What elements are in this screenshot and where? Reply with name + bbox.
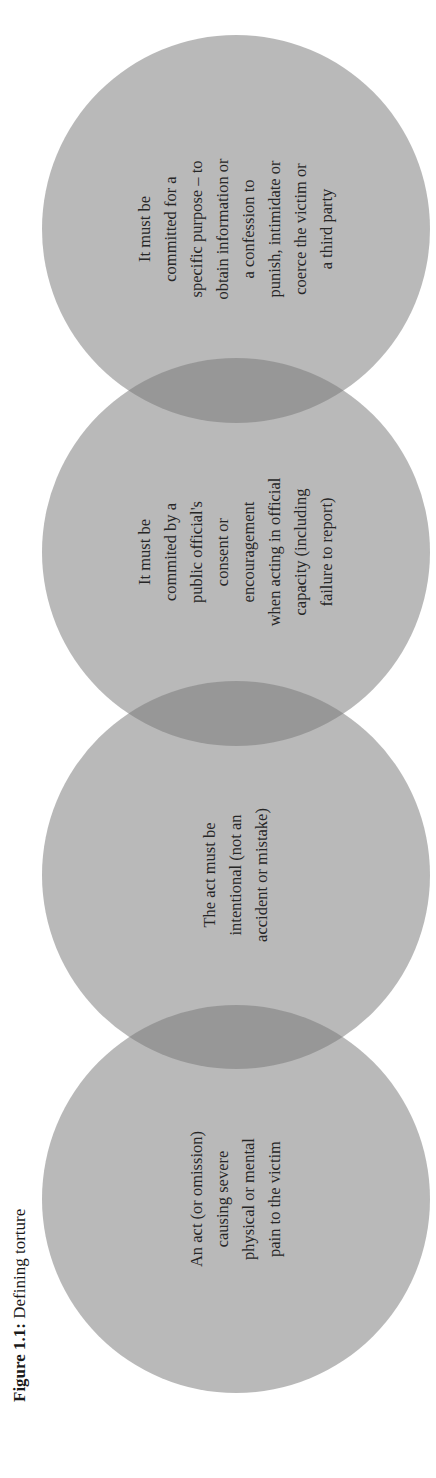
text-line: public official's [184,478,210,627]
text-line: commited by a [158,478,184,627]
text-line: coerce the victim or [288,158,314,299]
text-line: It must be [132,158,158,299]
overlapping-circles-diagram: An act (or omission) causing severe phys… [0,0,436,1478]
text-line: a third party [314,158,340,299]
text-line: obtain information or [210,158,236,299]
text-line: The act must be [197,808,223,942]
text-line: An act (or omission) [184,1131,210,1267]
circle-1-text: An act (or omission) causing severe phys… [136,1079,336,1319]
text-line: physical or mental [236,1131,262,1267]
text-line: pain to the victim [262,1131,288,1267]
text-line: causing severe [210,1131,236,1267]
text-line: encouragement [236,478,262,627]
text-line: failure to report) [314,478,340,627]
text-line: intentional (not an [223,808,249,942]
circle-3-text: It must be commited by a public official… [136,427,336,677]
text-line: committed for a [158,158,184,299]
circle-2-text: The act must be intentional (not an acci… [136,755,336,995]
text-line: punish, intimidate or [262,158,288,299]
text-line: It must be [132,478,158,627]
text-line: consent or [210,478,236,627]
text-line: specific purpose – to [184,158,210,299]
text-line: a confession to [236,158,262,299]
text-line: accident or mistake) [249,808,275,942]
text-line: when acting in official [262,478,288,627]
text-line: capacity (including [288,478,314,627]
circle-4-text: It must be committed for a specific purp… [136,104,336,354]
